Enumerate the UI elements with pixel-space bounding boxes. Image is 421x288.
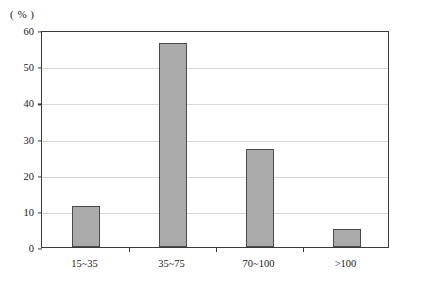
y-axis-tick-label: 30: [8, 134, 34, 145]
bar-chart-figure: ( % ) 0102030405060 15~3535~7570~100>100: [0, 0, 421, 288]
bar: [333, 229, 361, 247]
x-axis-tick-mark: [303, 247, 304, 252]
x-axis-category-label: 70~100: [243, 258, 275, 269]
y-axis-unit-label: ( % ): [10, 8, 35, 20]
x-axis-category-label: 15~35: [71, 258, 98, 269]
bar: [246, 149, 274, 247]
y-axis-tick-label: 60: [8, 26, 34, 37]
y-axis-tick-label: 0: [8, 243, 34, 254]
bar-group: [42, 32, 388, 247]
y-axis-tick-label: 20: [8, 170, 34, 181]
x-axis-category-label: >100: [335, 258, 357, 269]
x-axis-tick-mark: [216, 247, 217, 252]
x-axis-category-label: 35~75: [158, 258, 185, 269]
y-axis-tick-mark: [38, 248, 42, 249]
y-axis-tick-label: 50: [8, 62, 34, 73]
x-axis-tick-mark: [129, 247, 130, 252]
bar: [159, 43, 187, 247]
y-axis-tick-label: 40: [8, 98, 34, 109]
plot-area: [41, 31, 389, 248]
y-axis-tick-label: 10: [8, 206, 34, 217]
bar: [72, 206, 100, 247]
